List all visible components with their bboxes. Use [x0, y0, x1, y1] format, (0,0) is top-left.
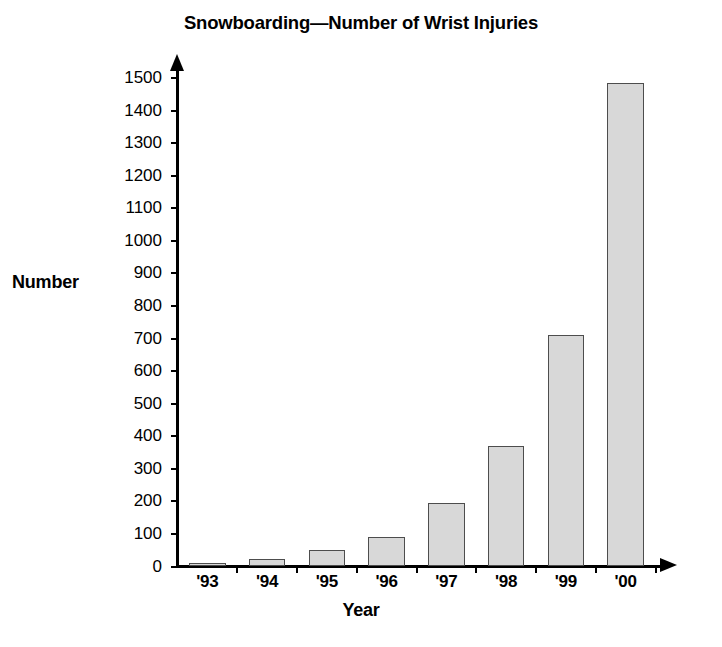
x-axis-tick-label: '93 [178, 572, 238, 592]
x-axis-tick-label: '95 [297, 572, 357, 592]
y-axis-tick-label: 300 [100, 460, 162, 477]
y-axis-tick-label: 1400 [100, 102, 162, 119]
x-axis-tick-label: '00 [596, 572, 656, 592]
bar [548, 335, 585, 566]
y-axis-tick [171, 435, 179, 437]
y-axis-tick [171, 403, 179, 405]
y-axis-tick [171, 500, 179, 502]
y-axis-arrow-icon [170, 54, 184, 71]
x-axis-tick-label: '97 [417, 572, 477, 592]
y-axis-tick-label: 600 [100, 362, 162, 379]
y-axis-tick-label: 1100 [100, 199, 162, 216]
y-axis-tick-label: 1000 [100, 232, 162, 249]
y-axis-tick-label: 800 [100, 297, 162, 314]
y-axis-tick [171, 533, 179, 535]
y-axis-tick [171, 338, 179, 340]
y-axis-tick-label: 500 [100, 395, 162, 412]
y-axis-tick [171, 272, 179, 274]
x-axis-tick-label: '98 [476, 572, 536, 592]
bar [249, 559, 286, 566]
y-axis-tick [171, 566, 179, 568]
bar [368, 537, 405, 567]
y-axis-tick [171, 77, 179, 79]
y-axis-tick-label: 1500 [100, 69, 162, 86]
y-axis-tick [171, 207, 179, 209]
y-axis-tick [171, 175, 179, 177]
x-axis-tick-label: '96 [357, 572, 417, 592]
y-axis-tick-label: 0 [100, 558, 162, 575]
y-axis-tick-label: 100 [100, 525, 162, 542]
bar [488, 446, 525, 566]
bar [189, 563, 226, 566]
y-axis-tick-label: 700 [100, 330, 162, 347]
bar-chart-figure: Snowboarding—Number of Wrist Injuries Nu… [0, 0, 722, 647]
y-axis-tick-label: 1300 [100, 134, 162, 151]
plot-area: 0100200300400500600700800900100011001200… [0, 0, 722, 647]
y-axis-tick-label: 200 [100, 492, 162, 509]
y-axis-tick [171, 370, 179, 372]
y-axis-tick-label: 400 [100, 427, 162, 444]
y-axis-tick [171, 240, 179, 242]
y-axis-tick [171, 110, 179, 112]
y-axis-tick-label: 1200 [100, 167, 162, 184]
x-axis-tick-label: '99 [536, 572, 596, 592]
bar [428, 503, 465, 567]
x-axis-tick-label: '94 [237, 572, 297, 592]
y-axis-tick [171, 305, 179, 307]
y-axis-tick [171, 142, 179, 144]
bar [309, 550, 346, 566]
x-axis-arrow-icon [660, 558, 677, 572]
bar [607, 83, 644, 567]
y-axis-tick [171, 468, 179, 470]
y-axis-tick-label: 900 [100, 264, 162, 281]
